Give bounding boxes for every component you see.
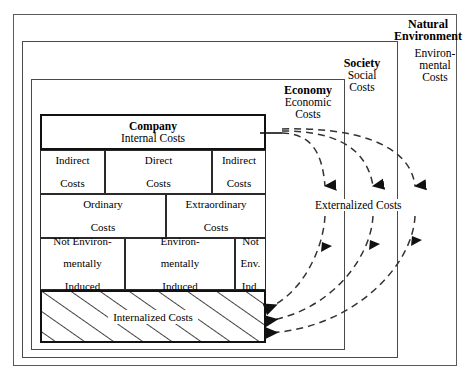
cell-text-line1: Not Environ- (53, 236, 111, 247)
externalized-costs-label: Externalized Costs (313, 199, 404, 211)
cell-text-line2: mentally (53, 258, 111, 269)
cell-text-line1: Direct (145, 155, 172, 166)
company-name: Company (129, 120, 177, 132)
natural-environment-name-line2: Environment (386, 30, 470, 42)
cell-environmentally-induced: Environ- mentally Induced (125, 238, 235, 290)
cell-not-env-ind: Not Env. Ind. (235, 238, 266, 290)
cell-text-line2: Costs (222, 178, 256, 189)
label-environmental-costs: Environ- mental Costs (404, 48, 466, 84)
cell-text-line2: Costs (145, 178, 172, 189)
environmental-costs-line2: mental (404, 60, 466, 72)
cell-not-environmentally-induced: Not Environ- mentally Induced (40, 238, 125, 290)
cell-text-line2: mentally (160, 258, 199, 269)
diagram-canvas: Natural Environment Environ- mental Cost… (0, 0, 470, 384)
cell-indirect-costs-left: Indirect Costs (40, 150, 105, 194)
cell-text-line2: Costs (83, 222, 123, 233)
cell-extraordinary-costs: Extraordinary Costs (166, 194, 266, 238)
company-internal-costs: Internal Costs (121, 132, 185, 144)
cell-direct-costs: Direct Costs (105, 150, 212, 194)
cell-indirect-costs-right: Indirect Costs (212, 150, 266, 194)
cell-ordinary-costs: Ordinary Costs (40, 194, 166, 238)
economy-name: Economy (274, 84, 342, 96)
cell-text-line1: Environ- (160, 236, 199, 247)
cell-text-line1: Indirect (222, 155, 256, 166)
cell-text-line1: Extraordinary (185, 199, 246, 210)
cell-text-line1: Indirect (55, 155, 89, 166)
label-natural-environment: Natural Environment (386, 18, 470, 43)
internalized-costs-bar: Internalized Costs (40, 290, 266, 343)
label-society: Society (330, 57, 394, 69)
label-economic-costs: Economic Costs (274, 97, 342, 121)
economic-costs-line2: Costs (274, 109, 342, 121)
cell-text-line2: Costs (185, 222, 246, 233)
cell-text-line2: Env. (241, 258, 261, 269)
cell-text-line2: Costs (55, 178, 89, 189)
environmental-costs-line3: Costs (404, 72, 466, 84)
internalized-costs-label: Internalized Costs (108, 310, 198, 324)
company-header: Company Internal Costs (40, 114, 266, 150)
label-economy: Economy (274, 84, 342, 96)
society-name: Society (330, 57, 394, 69)
cell-text-line1: Not (241, 236, 261, 247)
cell-text-line1: Ordinary (83, 199, 123, 210)
